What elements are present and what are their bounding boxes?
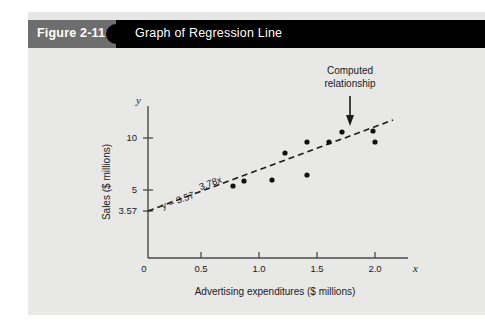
data-point — [282, 150, 287, 155]
equation-rhs: 3.78x — [198, 174, 224, 192]
computed-relationship-annotation: Computed relationship — [324, 65, 376, 126]
x-tick-label-0-5: 0.5 — [194, 263, 207, 274]
annotation-line-2: relationship — [324, 78, 376, 89]
data-point — [269, 177, 274, 182]
scatter-points — [230, 128, 377, 188]
y-axis-title: Sales ($ millions) — [101, 144, 112, 220]
y-tick-label-10: 10 — [126, 132, 137, 143]
regression-chart: 10 5 3.57 0 0.5 1.0 1.5 2.0 y x Advertis… — [0, 0, 485, 330]
y-tick-label-intercept: 3.57 — [119, 205, 138, 216]
data-point — [304, 172, 309, 177]
data-point — [304, 139, 309, 144]
x-axis-title: Advertising expenditures ($ millions) — [195, 286, 356, 297]
x-tick-label-2-0: 2.0 — [368, 263, 381, 274]
annotation-arrow-head-icon — [346, 115, 354, 126]
y-axis-symbol: y — [135, 94, 141, 106]
data-point — [326, 139, 331, 144]
x-tick-label-1-5: 1.5 — [310, 263, 323, 274]
y-tick-label-5: 5 — [132, 184, 137, 195]
figure-root: Figure 2-11 Graph of Regression Line — [0, 0, 485, 330]
data-point — [339, 129, 344, 134]
equation-lhs: y = 3.57 — [160, 189, 196, 211]
annotation-line-1: Computed — [327, 65, 373, 76]
chart-svg: 10 5 3.57 0 0.5 1.0 1.5 2.0 y x Advertis… — [0, 0, 485, 330]
x-tick-label-1-0: 1.0 — [252, 263, 265, 274]
x-axis-ticks — [201, 252, 375, 258]
x-axis-symbol: x — [412, 262, 418, 274]
data-point — [241, 178, 246, 183]
data-point — [230, 183, 235, 188]
data-point — [372, 139, 377, 144]
data-point — [370, 128, 375, 133]
x-tick-label-0: 0 — [141, 263, 146, 274]
regression-equation: y = 3.57 3.78x — [158, 174, 225, 211]
